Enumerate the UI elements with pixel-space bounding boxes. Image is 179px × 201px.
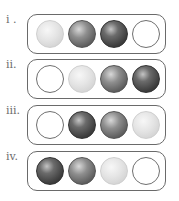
medium-ball-icon	[68, 157, 96, 185]
cropped-top-text: — — — — — — — —	[20, 0, 160, 3]
ball-box	[27, 151, 166, 191]
dark-ball-icon	[68, 111, 96, 139]
option-row-ii: ii.	[0, 59, 179, 101]
light-ball-icon	[132, 111, 160, 139]
medium-ball-icon	[68, 20, 96, 48]
row-label: iii.	[6, 105, 20, 117]
medium-ball-icon	[100, 65, 128, 93]
light-ball-icon	[68, 65, 96, 93]
ball-box	[27, 105, 166, 145]
dark-ball-icon	[132, 65, 160, 93]
option-row-iii: iii.	[0, 105, 179, 147]
row-label: i .	[6, 14, 17, 26]
medium-ball-icon	[100, 111, 128, 139]
dark-ball-icon	[36, 157, 64, 185]
row-label: iv.	[6, 151, 18, 163]
empty-ball-icon	[36, 111, 64, 139]
light-ball-icon	[100, 157, 128, 185]
empty-ball-icon	[132, 157, 160, 185]
row-label: ii.	[6, 59, 17, 71]
ball-box	[27, 59, 166, 99]
option-row-iv: iv.	[0, 151, 179, 193]
dark-ball-icon	[100, 20, 128, 48]
empty-ball-icon	[132, 20, 160, 48]
option-row-i: i .	[0, 14, 179, 56]
ball-box	[27, 14, 166, 54]
empty-ball-icon	[36, 65, 64, 93]
light-ball-icon	[36, 20, 64, 48]
